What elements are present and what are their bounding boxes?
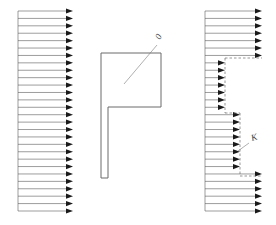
label-o: 0 [153,32,164,41]
arrow-head-icon [255,53,262,58]
arrow-head-icon [66,8,73,13]
arrow-head-icon [233,164,240,169]
arrow-head-icon [233,120,240,125]
arrow-head-icon [66,23,73,28]
arrow-head-icon [66,171,73,176]
arrow-head-icon [218,105,225,110]
label-k: K [249,131,259,143]
arrow-head-icon [66,53,73,58]
arrow-head-icon [66,157,73,162]
arrow-head-icon [66,149,73,154]
arrow-head-icon [233,157,240,162]
arrow-head-icon [66,127,73,132]
arrow-head-icon [255,38,262,43]
arrow-head-icon [66,75,73,80]
arrow-head-icon [255,8,262,13]
arrow-head-icon [66,112,73,117]
arrow-head-icon [255,201,262,206]
right-arrow-array [205,8,262,213]
arrow-head-icon [218,82,225,87]
arrow-head-icon [255,31,262,36]
diagram-canvas: 0 K [0,0,276,225]
arrow-head-icon [233,149,240,154]
arrow-head-icon [66,45,73,50]
technical-diagram: 0 K [0,0,276,225]
arrow-head-icon [66,142,73,147]
arrow-head-icon [66,60,73,65]
arrow-head-icon [66,105,73,110]
arrow-head-icon [66,164,73,169]
arrow-head-icon [66,120,73,125]
arrow-head-icon [255,208,262,213]
arrow-head-icon [66,31,73,36]
arrow-head-icon [233,142,240,147]
arrow-head-icon [218,90,225,95]
arrow-head-icon [255,179,262,184]
arrow-head-icon [218,97,225,102]
arrow-head-icon [66,97,73,102]
arrow-head-icon [233,127,240,132]
arrow-head-icon [233,134,240,139]
arrow-head-icon [255,16,262,21]
arrow-head-icon [66,186,73,191]
arrow-head-icon [66,16,73,21]
arrow-head-icon [66,201,73,206]
arrow-head-icon [218,68,225,73]
arrow-head-icon [255,186,262,191]
arrow-head-icon [66,68,73,73]
arrow-head-icon [66,194,73,199]
arrow-head-icon [218,75,225,80]
arrow-head-icon [66,38,73,43]
arrow-head-icon [66,179,73,184]
left-arrow-array [18,8,73,213]
right-array-step-outline [225,58,262,176]
center-polygon-outline [101,53,161,178]
arrow-head-icon [66,134,73,139]
arrow-head-icon [255,23,262,28]
arrow-head-icon [255,45,262,50]
arrow-head-icon [66,90,73,95]
arrow-head-icon [218,60,225,65]
arrow-head-icon [255,194,262,199]
arrow-head-icon [66,208,73,213]
arrow-head-icon [66,82,73,87]
labels-group: 0 K [153,32,259,143]
